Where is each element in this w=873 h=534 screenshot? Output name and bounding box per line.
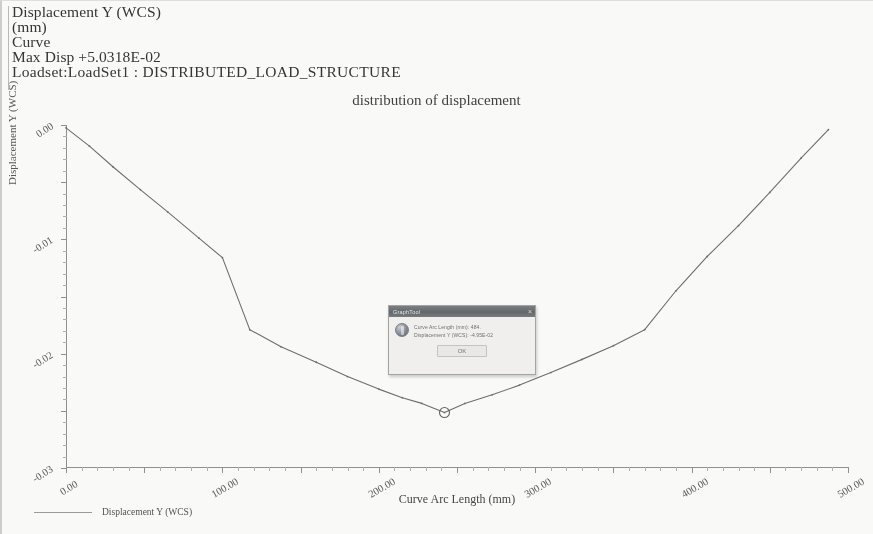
header-line-entity: Curve	[12, 34, 401, 49]
x-axis-title: Curve Arc Length (mm)	[66, 492, 848, 507]
chart-title: distribution of displacement	[0, 92, 873, 109]
header-line-loadset: Loadset:LoadSet1 : DISTRIBUTED_LOAD_STRU…	[12, 64, 401, 79]
curve-vertex	[139, 189, 141, 191]
curve-vertex	[769, 192, 771, 194]
curve-vertex	[89, 145, 91, 147]
curve-vertex	[738, 225, 740, 227]
curve-vertex	[706, 256, 708, 258]
dialog-message-line-displacement: Displacement Y (WCS): -4.95E-02	[414, 332, 493, 338]
curve-vertex	[519, 384, 521, 386]
dialog-title: GraphTool	[393, 309, 420, 315]
curve-vertex	[800, 157, 802, 159]
y-tick-label: -0.02	[31, 349, 55, 370]
curve-vertex	[65, 127, 67, 129]
curve-vertex	[581, 358, 583, 360]
curve-vertex	[421, 403, 423, 405]
header-line-quantity: Displacement Y (WCS)	[12, 4, 401, 19]
curve-vertex	[167, 211, 169, 213]
y-tick-label: 0.00	[34, 120, 55, 139]
dialog-message: Curve Arc Length (mm): 484. Displacement…	[414, 323, 493, 338]
curve-vertex	[464, 403, 466, 405]
ok-button[interactable]: OK	[437, 345, 487, 357]
y-axis-title: Displacement Y (WCS)	[6, 81, 18, 185]
legend: Displacement Y (WCS)	[34, 507, 192, 517]
curve-vertex	[613, 345, 615, 347]
displacement-curve	[66, 125, 848, 468]
curve-vertex	[198, 237, 200, 239]
curve-vertex	[491, 394, 493, 396]
y-tick-label: -0.01	[31, 235, 55, 256]
plot-header: Displacement Y (WCS) (mm) Curve Max Disp…	[12, 4, 401, 79]
curve-vertex	[315, 361, 317, 363]
curve-vertex	[675, 290, 677, 292]
curve-vertex	[378, 388, 380, 390]
dialog-message-line-arc-length: Curve Arc Length (mm): 484.	[414, 324, 493, 330]
curve-vertex	[444, 412, 446, 414]
header-line-units: (mm)	[12, 19, 401, 34]
curve-vertex	[280, 346, 282, 348]
curve-vertex	[401, 397, 403, 399]
curve-vertex	[249, 329, 251, 331]
header-line-max-disp: Max Disp +5.0318E-02	[12, 49, 401, 64]
graph-tool-window: Displacement Y (WCS) (mm) Curve Max Disp…	[0, 0, 873, 534]
y-tick-label: -0.03	[31, 463, 55, 484]
close-icon[interactable]: ×	[528, 308, 532, 315]
curve-vertex	[112, 166, 114, 168]
legend-label: Displacement Y (WCS)	[102, 507, 192, 517]
plot-area: 0.00-0.01-0.02-0.03-0.04-0.05-0.06 0.001…	[66, 125, 848, 468]
graphtool-dialog[interactable]: GraphTool × Curve Arc Length (mm): 484. …	[388, 305, 536, 375]
legend-line-swatch	[34, 512, 92, 513]
dialog-titlebar[interactable]: GraphTool ×	[389, 306, 535, 317]
curve-vertex	[644, 329, 646, 331]
curve-vertex	[828, 129, 830, 131]
info-icon	[395, 323, 409, 337]
header-rule	[8, 6, 9, 90]
dialog-body: Curve Arc Length (mm): 484. Displacement…	[389, 317, 535, 338]
curve-vertex	[222, 257, 224, 259]
curve-vertex	[347, 376, 349, 378]
curve-vertex	[550, 372, 552, 374]
dialog-button-row: OK	[389, 345, 535, 357]
x-tick: 1000.00	[848, 467, 849, 473]
